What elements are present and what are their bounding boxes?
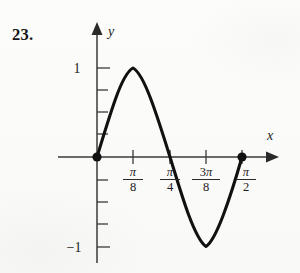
fraction-numerator: π (123, 166, 143, 180)
figure-container: 23. (0, 0, 300, 273)
fraction-denominator: 8 (189, 180, 223, 193)
y-axis-variable-label: y (106, 24, 115, 39)
axis-group (58, 22, 279, 263)
x-axis-arrowhead (266, 152, 279, 163)
fraction-numerator: π (160, 166, 180, 180)
left-endpoint-dot (92, 152, 101, 161)
fraction-numerator: 3π (192, 166, 220, 180)
fraction-denominator: 8 (116, 180, 150, 193)
fraction-denominator: 2 (229, 180, 263, 193)
fraction-denominator: 4 (153, 180, 187, 193)
y-axis-label-positive-one: 1 (74, 61, 81, 76)
x-tick-label-pi-over-8: π 8 (116, 166, 150, 194)
right-endpoint-dot (237, 152, 246, 161)
fraction-numerator: π (236, 166, 256, 180)
y-axis-label-negative-one: −1 (67, 240, 82, 255)
graph-plot: y x 1 −1 (0, 0, 300, 273)
x-axis-variable-label: x (266, 128, 274, 143)
x-tick-label-3pi-over-8: 3π 8 (189, 166, 223, 194)
x-tick-label-pi-over-2: π 2 (229, 166, 263, 194)
y-axis-arrowhead (92, 22, 103, 35)
x-tick-label-pi-over-4: π 4 (153, 166, 187, 194)
